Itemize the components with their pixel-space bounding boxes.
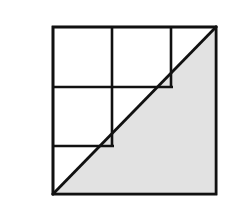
geometry-diagram: [0, 0, 234, 221]
figure-container: C: [0, 0, 234, 221]
